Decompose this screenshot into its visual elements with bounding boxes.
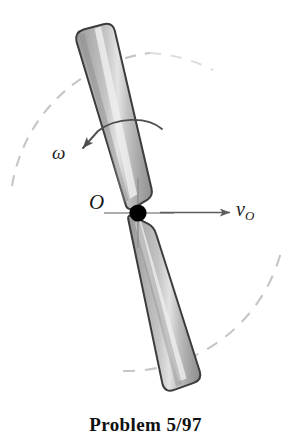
label-velocity-vO: vO	[236, 199, 254, 222]
pivot-dot-O	[129, 204, 146, 221]
velocity-symbol: v	[236, 198, 245, 220]
velocity-subscript: O	[245, 208, 254, 223]
dashed-arc-top-right-fading	[150, 53, 213, 70]
figure-caption: Problem 5/97	[0, 414, 291, 435]
label-angular-velocity-omega: ω	[52, 143, 65, 162]
label-pivot-O: O	[89, 192, 104, 213]
